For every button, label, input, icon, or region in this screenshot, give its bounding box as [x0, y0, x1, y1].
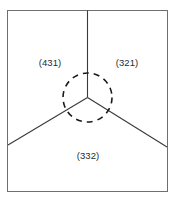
grain-label-bottom: (332) [77, 151, 100, 161]
grain-label-right: (321) [116, 58, 139, 68]
diagram-canvas [0, 0, 175, 202]
grain-label-left: (431) [39, 58, 62, 68]
figure-container: (431) (321) (332) [0, 0, 175, 202]
